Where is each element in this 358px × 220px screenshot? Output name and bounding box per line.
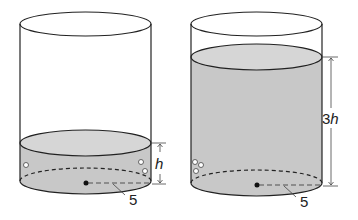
left-water-surface (20, 130, 151, 156)
left-center-dot (84, 181, 89, 186)
left-height-dimension: h (152, 143, 166, 184)
bubble (194, 169, 199, 174)
right-height-label: 3h (322, 110, 339, 127)
right-top-rim (191, 12, 322, 36)
right-height-dimension: 3h (322, 57, 339, 186)
right-height-var: h (330, 110, 338, 127)
right-water-body (191, 57, 322, 196)
right-height-coef: 3 (322, 110, 330, 127)
left-height-label: h (155, 155, 163, 172)
bubble (143, 169, 148, 174)
left-cylinder: 5 h (20, 12, 166, 208)
right-water-surface (191, 44, 322, 70)
right-center-dot (255, 183, 260, 188)
bubble (193, 160, 198, 165)
bubble (199, 163, 204, 168)
bubble (139, 160, 144, 165)
cylinders-diagram: 5 h 5 (0, 0, 358, 220)
right-radius-label: 5 (300, 193, 308, 210)
bubble (24, 163, 29, 168)
left-top-rim (20, 12, 151, 36)
right-cylinder: 5 3h (191, 12, 339, 210)
left-radius-label: 5 (129, 191, 137, 208)
